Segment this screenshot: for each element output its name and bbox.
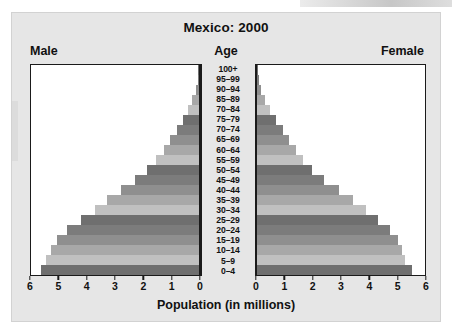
female-bar <box>257 85 261 95</box>
age-group-label: 25–29 <box>200 215 256 225</box>
age-group-label: 50–54 <box>200 165 256 175</box>
bar-row <box>257 65 425 75</box>
age-group-label: 95–99 <box>200 74 256 84</box>
axis-tick-label: 6 <box>423 280 429 292</box>
bar-row <box>31 185 199 195</box>
bar-row <box>257 195 425 205</box>
male-bar <box>196 85 199 95</box>
age-label-column: 0–45–910–1415–1920–2425–2930–3435–3940–4… <box>200 64 256 276</box>
bar-row <box>31 85 199 95</box>
bar-row <box>31 215 199 225</box>
male-bar <box>164 145 199 155</box>
female-bar <box>257 115 276 125</box>
axis-tick-label: 0 <box>253 280 259 292</box>
age-group-label: 90–94 <box>200 84 256 94</box>
female-bar <box>257 235 398 245</box>
female-bar <box>257 205 366 215</box>
bar-row <box>257 165 425 175</box>
bar-row <box>257 75 425 85</box>
age-group-label: 60–64 <box>200 145 256 155</box>
age-group-label: 15–19 <box>200 236 256 246</box>
male-bar <box>51 245 199 255</box>
page-edge-artifact <box>12 101 18 161</box>
bar-row <box>257 205 425 215</box>
male-bar <box>183 115 199 125</box>
age-label-rows: 0–45–910–1415–1920–2425–2930–3435–3940–4… <box>200 64 256 276</box>
female-bar <box>257 255 405 265</box>
x-axis-strip: 6543210 0123456 <box>30 276 426 296</box>
age-group-label: 65–69 <box>200 135 256 145</box>
age-group-label: 10–14 <box>200 246 256 256</box>
bar-row <box>31 115 199 125</box>
bar-row <box>31 175 199 185</box>
male-bar <box>135 175 199 185</box>
female-bar <box>257 265 412 275</box>
bar-row <box>257 175 425 185</box>
bar-row <box>257 255 425 265</box>
bar-row <box>31 245 199 255</box>
page-background: Mexico: 2000 Male Age Female 0–45–910–14… <box>0 0 452 333</box>
chart-title: Mexico: 2000 <box>12 20 440 35</box>
bar-row <box>31 95 199 105</box>
male-bar <box>67 225 199 235</box>
female-bar <box>257 105 270 115</box>
age-group-label: 75–79 <box>200 115 256 125</box>
bar-row <box>257 115 425 125</box>
bar-row <box>31 75 199 85</box>
pyramid-plot: 0–45–910–1415–1920–2425–2930–3435–3940–4… <box>30 64 426 276</box>
bar-row <box>257 125 425 135</box>
male-bar <box>81 215 199 225</box>
male-bar <box>177 125 199 135</box>
axis-tick-label: 5 <box>395 280 401 292</box>
bar-row <box>257 185 425 195</box>
axis-spacer <box>200 276 256 296</box>
female-bar <box>257 245 402 255</box>
male-bar <box>107 195 199 205</box>
age-group-label: 70–74 <box>200 125 256 135</box>
bar-row <box>257 245 425 255</box>
male-bar <box>46 255 199 265</box>
female-bar-rows <box>257 65 425 275</box>
axis-tick-label: 2 <box>140 280 146 292</box>
bar-row <box>31 205 199 215</box>
age-group-label: 35–39 <box>200 195 256 205</box>
bar-row <box>257 155 425 165</box>
age-group-label: 45–49 <box>200 175 256 185</box>
bar-row <box>257 105 425 115</box>
male-bar <box>121 185 199 195</box>
male-bar <box>156 155 199 165</box>
bar-row <box>31 265 199 275</box>
female-bar <box>257 155 303 165</box>
bar-row <box>257 145 425 155</box>
bar-row <box>31 105 199 115</box>
male-bar-rows <box>31 65 199 275</box>
axis-tick-label: 1 <box>169 280 175 292</box>
age-group-label: 85–89 <box>200 94 256 104</box>
bar-row <box>257 265 425 275</box>
female-bar <box>257 195 353 205</box>
age-header-label: Age <box>12 44 440 58</box>
axis-tick-label: 3 <box>112 280 118 292</box>
age-group-label: 20–24 <box>200 226 256 236</box>
male-bar <box>198 65 199 75</box>
age-group-label: 30–34 <box>200 205 256 215</box>
male-bar <box>170 135 199 145</box>
axis-tick-label: 4 <box>366 280 372 292</box>
male-bar <box>198 75 199 85</box>
female-bar <box>257 135 289 145</box>
female-bar <box>257 175 324 185</box>
bar-row <box>257 225 425 235</box>
bar-row <box>257 85 425 95</box>
axis-tick-label: 6 <box>27 280 33 292</box>
male-plot-panel <box>30 64 200 276</box>
bar-row <box>31 165 199 175</box>
bar-row <box>31 195 199 205</box>
axis-tick-label: 1 <box>281 280 287 292</box>
axis-tick-label: 2 <box>310 280 316 292</box>
bar-row <box>31 135 199 145</box>
female-bar <box>257 225 390 235</box>
bar-row <box>257 95 425 105</box>
bar-row <box>31 65 199 75</box>
scan-artifact-streak <box>300 0 452 7</box>
female-bar <box>257 145 296 155</box>
